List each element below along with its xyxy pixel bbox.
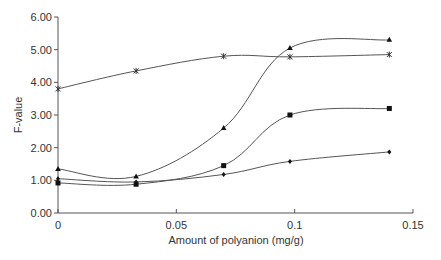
square-marker-icon: [221, 163, 226, 168]
diamond-marker-icon: [288, 159, 292, 164]
axes: 0.001.002.003.004.005.006.0000.050.10.15: [31, 11, 424, 231]
x-tick-label: 0: [55, 219, 61, 231]
series-group: [55, 37, 392, 187]
square-marker-icon: [387, 106, 392, 111]
triangle-marker-icon: [387, 37, 393, 42]
y-tick-label: 1.00: [31, 174, 52, 186]
diamond-marker-icon: [222, 172, 226, 177]
star-series: [56, 52, 392, 92]
line-chart: 0.001.002.003.004.005.006.0000.050.10.15…: [0, 0, 441, 260]
diamond-marker-icon: [387, 149, 391, 154]
y-tick-label: 3.00: [31, 109, 52, 121]
square-marker-icon: [287, 113, 292, 118]
y-tick-label: 6.00: [31, 11, 52, 23]
x-tick-label: 0.1: [287, 219, 302, 231]
series-line: [58, 55, 389, 89]
axis-lines: [58, 17, 413, 213]
y-tick-label: 4.00: [31, 76, 52, 88]
y-tick-label: 0.00: [31, 207, 52, 219]
triangle-marker-icon: [55, 166, 61, 171]
x-axis-title: Amount of polyanion (mg/g): [168, 234, 303, 246]
y-tick-label: 5.00: [31, 44, 52, 56]
y-axis-title: F-value: [12, 97, 24, 134]
x-tick-label: 0.15: [402, 219, 423, 231]
x-tick-label: 0.05: [166, 219, 187, 231]
y-tick-label: 2.00: [31, 142, 52, 154]
